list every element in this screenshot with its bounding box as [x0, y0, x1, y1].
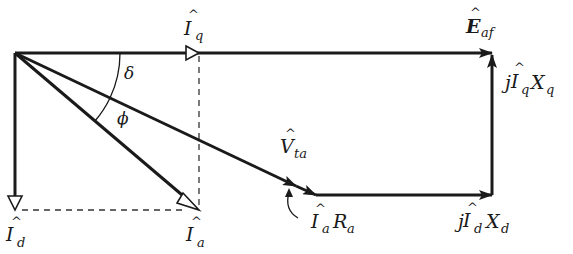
label-id: ^ I d — [5, 214, 25, 250]
svg-text:af: af — [481, 25, 496, 40]
svg-text:a: a — [322, 221, 330, 236]
svg-text:δ: δ — [124, 63, 134, 83]
svg-text:a: a — [197, 235, 205, 250]
ia-arrowhead-icon — [177, 193, 199, 210]
svg-text:X: X — [484, 210, 501, 232]
label-delta: δ — [124, 63, 134, 83]
svg-text:E: E — [465, 15, 481, 37]
iara-pointer-arrowhead-icon — [285, 188, 293, 197]
svg-text:d: d — [501, 221, 509, 236]
svg-text:R: R — [332, 210, 347, 232]
label-iq: ^ I q — [183, 7, 203, 43]
id-arrowhead-icon — [8, 196, 22, 210]
label-iara: ^ I a R a — [310, 201, 355, 236]
label-vta: ^ V ta — [280, 126, 307, 161]
svg-text:d: d — [17, 235, 25, 250]
label-phi: ϕ — [117, 108, 129, 128]
svg-text:I: I — [462, 209, 471, 231]
delta-angle-arc — [110, 53, 120, 98]
svg-text:ϕ: ϕ — [117, 108, 129, 128]
svg-text:X: X — [529, 71, 546, 93]
phasor-diagram-canvas: ^ I q ^ E af j ^ I q X q ^ V ta δ ϕ ^ I … — [0, 0, 573, 254]
svg-text:a: a — [347, 221, 355, 236]
phasor-diagram: ^ I q ^ E af j ^ I q X q ^ V ta δ ϕ ^ I … — [0, 0, 573, 254]
svg-text:d: d — [474, 221, 482, 236]
vta-phasor-line — [15, 53, 296, 186]
ia-phasor-line — [15, 53, 188, 200]
iara-phasor-line — [296, 186, 316, 195]
iq-arrowhead-icon — [186, 46, 199, 60]
label-jidxd: j ^ I d X d — [454, 200, 509, 236]
svg-text:I: I — [310, 210, 319, 232]
label-ia: ^ I a — [185, 214, 205, 250]
svg-text:I: I — [510, 70, 519, 92]
svg-text:ta: ta — [294, 146, 307, 161]
label-jiqxq: j ^ I q X q — [501, 60, 554, 97]
label-eaf: ^ E af — [465, 5, 496, 40]
svg-text:q: q — [521, 82, 529, 97]
phi-angle-arc — [95, 98, 110, 121]
svg-text:j: j — [501, 71, 511, 93]
svg-text:I: I — [183, 17, 192, 39]
svg-text:I: I — [185, 223, 194, 245]
svg-text:q: q — [546, 82, 554, 97]
svg-text:q: q — [195, 28, 203, 43]
svg-text:I: I — [5, 223, 14, 245]
